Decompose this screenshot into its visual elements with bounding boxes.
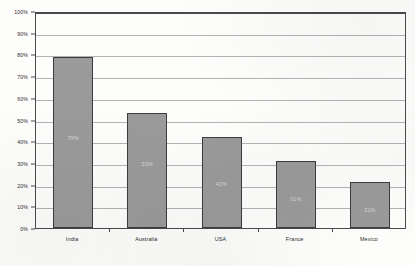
bar-india [53,57,93,228]
bar-australia [127,113,167,228]
y-tick-label: 20% [17,183,28,189]
y-tick-mark [31,55,35,56]
bar-value-label-india: 79% [53,135,93,141]
bar-chart: 79%53%42%31%21% 0%10%20%30%40%50%60%70%8… [0,0,415,266]
y-tick-mark [31,77,35,78]
y-tick-label: 80% [17,52,28,58]
y-tick-mark [31,12,35,13]
x-tick-mark [332,229,333,232]
gridline-90 [36,35,405,36]
y-tick-mark [31,207,35,208]
bar-mexico [350,182,390,228]
y-tick-label: 30% [17,161,28,167]
y-tick-label: 40% [17,139,28,145]
bar-value-label-france: 31% [276,196,316,202]
y-tick-label: 70% [17,74,28,80]
y-tick-label: 50% [17,118,28,124]
x-tick-mark [258,229,259,232]
bar-france [276,161,316,228]
y-tick-label: 0% [20,226,28,232]
y-axis: 0%10%20%30%40%50%60%70%80%90%100% [0,0,35,266]
y-tick-mark [31,163,35,164]
x-tick-mark [109,229,110,232]
y-tick-label: 100% [14,9,28,15]
y-tick-mark [31,185,35,186]
y-tick-label: 10% [17,204,28,210]
y-tick-label: 90% [17,31,28,37]
bar-value-label-usa: 42% [202,181,242,187]
y-tick-mark [31,120,35,121]
y-tick-mark [31,33,35,34]
x-axis: IndiaAustraliaUSAFranceMexico [35,236,406,252]
x-tick-label-mexico: Mexico [360,236,378,242]
y-tick-label: 60% [17,96,28,102]
x-tick-label-australia: Australia [135,236,157,242]
x-tick-label-india: India [66,236,78,242]
x-tick-label-france: France [286,236,304,242]
bar-value-label-australia: 53% [127,161,167,167]
y-tick-mark [31,142,35,143]
bar-value-label-mexico: 21% [350,207,390,213]
plot-area: 79%53%42%31%21% [35,12,406,229]
y-tick-mark [31,98,35,99]
y-tick-mark [31,229,35,230]
x-tick-mark [183,229,184,232]
x-tick-label-usa: USA [215,236,227,242]
